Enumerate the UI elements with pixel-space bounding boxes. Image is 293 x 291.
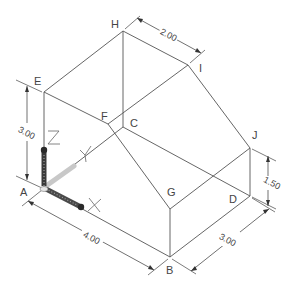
dimension-ridge-HI: 2.00 — [125, 16, 205, 63]
vertex-label-D: D — [229, 193, 237, 205]
dimension-height-DJ: 1.50 — [252, 149, 282, 209]
dimension-length-AB: 4.00 — [22, 190, 168, 275]
vertex-label-I: I — [199, 62, 202, 74]
vertex-label-B: B — [166, 264, 173, 276]
dimension-depth-BD: 3.00 — [172, 198, 275, 274]
model-edges — [44, 31, 250, 257]
edge-I-J — [188, 65, 250, 148]
dimension-height-AE: 3.00 — [16, 80, 42, 188]
vertex-label-H: H — [111, 18, 119, 30]
isometric-drawing: 3.00 2.00 1.50 4.00 3.00 — [0, 0, 293, 291]
edge-F-G — [108, 124, 170, 209]
vertex-label-J: J — [252, 129, 258, 141]
triad-x-label-icon — [88, 198, 101, 212]
edge-C-D — [123, 127, 250, 196]
edge-E-H — [44, 31, 123, 92]
triad-z-label-icon — [48, 131, 60, 144]
vertex-label-C: C — [130, 117, 138, 129]
vertex-label-G: G — [167, 186, 176, 198]
triad-y-label-icon — [80, 146, 91, 162]
triad-y-axis — [46, 166, 74, 186]
vertex-label-F: F — [101, 110, 108, 122]
edge-G-J — [170, 148, 250, 209]
vertex-label-A: A — [20, 186, 28, 198]
edge-B-D — [170, 196, 250, 257]
edge-F-I — [108, 65, 188, 124]
edge-E-F — [44, 92, 108, 124]
vertex-label-E: E — [34, 75, 41, 87]
coordinate-triad: X Y Z — [0, 0, 101, 212]
